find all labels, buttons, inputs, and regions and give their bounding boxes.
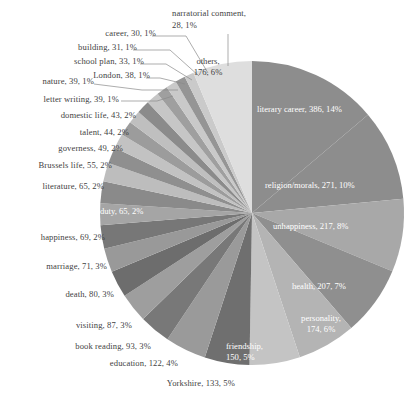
slice-label-governess: governess, 49, 2% (0, 143, 123, 153)
slice-label-nature: nature, 39, 1% (0, 76, 94, 86)
slice-label-friendship-line1: friendship, (226, 341, 316, 351)
slice-label-others-line2: 176, 6% (172, 67, 244, 77)
slice-label-talent: talent, 44, 2% (0, 127, 129, 137)
slice-label-book-reading: book reading, 93, 3% (0, 341, 151, 351)
slice-label-marriage: marriage, 71, 3% (0, 261, 107, 271)
slice-label-religion-morals: religion/morals, 271, 10% (265, 180, 420, 190)
slice-label-school-plan: school plan, 33, 1% (6, 56, 144, 66)
slice-label-narratorial-line2: 28, 1% (172, 20, 332, 30)
slice-label-brussels-life: Brussels life, 55, 2% (0, 160, 112, 170)
slice-label-letter-writing: letter writing, 39, 1% (0, 94, 119, 104)
slice-label-narratorial-line1: narratorial comment, (172, 8, 332, 18)
slice-label-literature: literature, 65, 2% (0, 181, 104, 191)
slice-label-literary-career: literary career, 386, 14% (257, 104, 417, 114)
slice-label-duty: duty, 65, 2% (100, 206, 190, 216)
slice-label-personality-line2: 174, 6% (283, 324, 359, 334)
slice-label-happiness: happiness, 69, 2% (0, 232, 105, 242)
slice-label-others-line1: others, (172, 56, 244, 66)
slice-label-health: health, 207, 7% (292, 281, 412, 291)
slice-label-education: education, 122, 4% (0, 358, 178, 368)
slice-label-career: career, 30, 1% (6, 28, 156, 38)
slice-label-friendship-line2: 150, 5% (226, 352, 316, 362)
slice-label-death: death, 80, 3% (0, 289, 114, 299)
slice-label-personality-line1: personality, (283, 313, 359, 323)
slice-label-yorkshire: Yorkshire, 133, 5% (0, 378, 235, 388)
slice-label-building: building, 31, 1% (6, 42, 137, 52)
slice-label-domestic-life: domestic life, 43, 2% (0, 110, 136, 120)
slice-label-visiting: visiting, 87, 3% (0, 320, 132, 330)
slice-label-unhappiness: unhappiness, 217, 8% (273, 221, 420, 231)
pie-chart-figure: career, 30, 1% building, 31, 1% school p… (0, 0, 420, 395)
